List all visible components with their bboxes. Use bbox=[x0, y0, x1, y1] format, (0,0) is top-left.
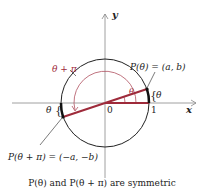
theta-label: θ bbox=[129, 87, 134, 96]
arc-theta-right-label: θ bbox=[156, 90, 162, 100]
y-axis-label: y bbox=[111, 9, 119, 20]
unit-circle-diagram: { { y x 0 1 θ + π θ θ θ P(θ) = (a, b) P(… bbox=[0, 0, 204, 192]
x-axis-label: x bbox=[185, 104, 193, 115]
theta-plus-pi-label: θ + π bbox=[52, 64, 78, 74]
leader-p bbox=[147, 72, 155, 88]
arc-theta-left-label: θ bbox=[46, 105, 52, 115]
radius-p bbox=[105, 89, 147, 103]
origin-label: 0 bbox=[107, 105, 113, 115]
arc-theta-right bbox=[147, 89, 149, 103]
figure-caption: P(θ) and P(θ + π) are symmetric bbox=[0, 178, 204, 188]
brace-left-icon: { bbox=[55, 104, 62, 117]
radius-p-pi bbox=[63, 103, 105, 117]
point-p-pi-label: P(θ + π) = (−a, −b) bbox=[7, 152, 98, 162]
leader-p-pi bbox=[40, 118, 62, 145]
point-p-label: P(θ) = (a, b) bbox=[129, 62, 186, 72]
one-label: 1 bbox=[151, 105, 157, 115]
